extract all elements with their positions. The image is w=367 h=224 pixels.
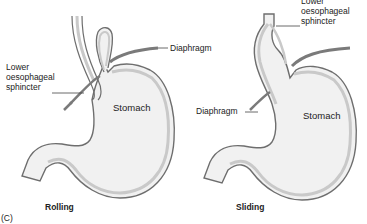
sliding-stomach-label: Stomach	[303, 111, 341, 121]
rolling-diaphragm-label: Diaphragm	[170, 43, 212, 53]
sliding-diaphragm-label: Diaphragm	[196, 106, 238, 116]
rolling-caption: Rolling	[45, 202, 74, 212]
sliding-sphincter-label: Lower oesophageal sphincter	[301, 0, 350, 26]
rolling-hernia-illustration	[22, 16, 174, 198]
panel-label: (C)	[1, 213, 13, 223]
rolling-stomach-label: Stomach	[113, 103, 151, 113]
rolling-sphincter-label: Lower oesophageal sphincter	[6, 62, 55, 92]
rolling-diaphragm	[110, 48, 158, 62]
sliding-diaphragm	[292, 48, 350, 66]
sliding-caption: Sliding	[236, 202, 264, 212]
